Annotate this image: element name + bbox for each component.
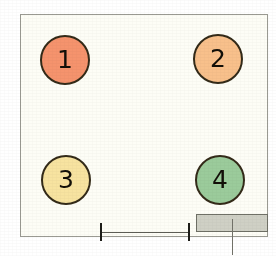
node-label-4: 4 xyxy=(212,167,228,192)
node-label-2: 2 xyxy=(210,46,226,71)
node-circle-1[interactable]: 1 xyxy=(40,35,90,85)
node-circle-4[interactable]: 4 xyxy=(195,155,245,205)
node-circle-3[interactable]: 3 xyxy=(41,155,91,205)
node-label-3: 3 xyxy=(58,167,74,192)
dimension-tick-right xyxy=(188,223,190,241)
dimension-line xyxy=(100,232,188,233)
dimension-tick-left xyxy=(100,223,102,241)
node-label-1: 1 xyxy=(57,47,73,72)
fixture-leader-line xyxy=(232,219,233,255)
diagram-canvas: 1 2 3 4 xyxy=(0,0,276,256)
node-circle-2[interactable]: 2 xyxy=(193,34,243,84)
